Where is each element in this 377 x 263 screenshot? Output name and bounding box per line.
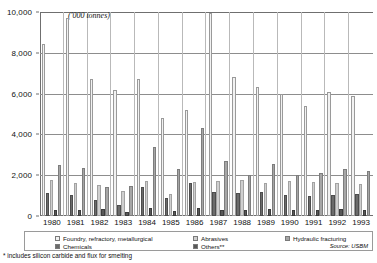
bar-group (278, 12, 302, 216)
bar (363, 210, 366, 216)
bar (129, 186, 132, 216)
y-axis-tick (36, 93, 39, 94)
legend-swatch-icon (55, 236, 60, 241)
bar (70, 195, 73, 216)
y-axis: 02,0004,0006,0008,00010,000 (0, 12, 36, 216)
bar (101, 209, 104, 216)
bar (224, 161, 227, 216)
legend-swatch-icon (193, 244, 198, 249)
bar (145, 181, 148, 216)
bar (42, 44, 45, 216)
bar (46, 193, 49, 216)
legend-item[interactable]: Chemicals (55, 243, 92, 250)
bar (125, 212, 128, 216)
x-axis-tick-label: 1981 (67, 218, 85, 227)
bar (78, 210, 81, 216)
bar (66, 18, 69, 216)
bar (173, 211, 176, 216)
x-axis-tick-label: 1983 (114, 218, 132, 227)
bar-group (254, 12, 278, 216)
legend: Source: USBM Foundry, refractory, metall… (24, 231, 373, 251)
bar (212, 192, 215, 216)
bar (165, 198, 168, 216)
bar (256, 87, 259, 216)
bar (351, 96, 354, 216)
chart-container: 02,0004,0006,0008,00010,000 ('000 tonnes… (0, 0, 377, 263)
source-label: Source: USBM (330, 243, 368, 249)
x-axis-tick-label: 1985 (162, 218, 180, 227)
legend-item[interactable]: Foundry, refractory, metallurgical (55, 235, 153, 242)
bar (74, 183, 77, 216)
bar (280, 94, 283, 216)
bar (113, 90, 116, 216)
x-axis-tick-label: 1988 (233, 218, 251, 227)
x-axis-tick-label: 1987 (209, 218, 227, 227)
legend-item[interactable]: Others** (193, 243, 224, 250)
legend-label: Chemicals (63, 243, 92, 250)
bar-group (40, 12, 64, 216)
bar (268, 209, 271, 216)
bar (260, 192, 263, 216)
legend-swatch-icon (55, 244, 60, 249)
legend-label: Others** (201, 243, 224, 250)
bar (327, 92, 330, 216)
x-axis-tick-label: 1986 (186, 218, 204, 227)
bar (355, 194, 358, 216)
unit-label: ('000 tonnes) (68, 11, 110, 20)
y-axis-tick-label: 2,000 (11, 171, 32, 180)
bar (94, 200, 97, 216)
bar (331, 195, 334, 216)
bar (82, 168, 85, 216)
bar (343, 169, 346, 216)
y-axis-tick-label: 6,000 (11, 89, 32, 98)
bar (54, 210, 57, 216)
bar (216, 181, 219, 216)
y-axis-tick-label: 10,000 (7, 8, 32, 17)
bar (161, 118, 164, 216)
bar (50, 180, 53, 216)
x-axis-labels: 1980198119821983198419851986198719881989… (40, 218, 373, 230)
bar-group (88, 12, 112, 216)
y-axis-tick (36, 216, 39, 217)
bar (220, 210, 223, 216)
bar-group (349, 12, 373, 216)
bar (240, 180, 243, 216)
bar (367, 171, 370, 216)
bar (209, 13, 212, 216)
bar-group (183, 12, 207, 216)
legend-item[interactable]: Abrasives (193, 235, 228, 242)
legend-item[interactable]: Hydraulic fracturing (285, 235, 346, 242)
bar (189, 183, 192, 216)
y-axis-tick (36, 134, 39, 135)
y-axis-tick (36, 175, 39, 176)
bar (339, 209, 342, 216)
bar (201, 128, 204, 216)
x-axis-tick-label: 1980 (43, 218, 61, 227)
bar (97, 185, 100, 216)
bar-group (135, 12, 159, 216)
bar (197, 208, 200, 216)
legend-swatch-icon (285, 236, 290, 241)
y-axis-tick-label: 4,000 (11, 130, 32, 139)
bar (244, 210, 247, 216)
x-axis-tick-label: 1982 (91, 218, 109, 227)
bar (193, 182, 196, 216)
bar (90, 79, 93, 216)
bar (185, 110, 188, 216)
bar (236, 193, 239, 216)
y-axis-tick-label: 8,000 (11, 48, 32, 57)
bar-groups (40, 12, 373, 216)
bar (153, 147, 156, 216)
bar-group (230, 12, 254, 216)
bar (359, 184, 362, 216)
bar (121, 191, 124, 217)
footnote: * includes silicon carbide and flux for … (3, 252, 132, 259)
bar-group (325, 12, 349, 216)
y-axis-tick-label: 0 (27, 212, 32, 221)
bar (117, 205, 120, 216)
bar (248, 175, 251, 216)
bar (177, 169, 180, 216)
bar (105, 187, 108, 216)
bar-group (159, 12, 183, 216)
bar (58, 165, 61, 216)
